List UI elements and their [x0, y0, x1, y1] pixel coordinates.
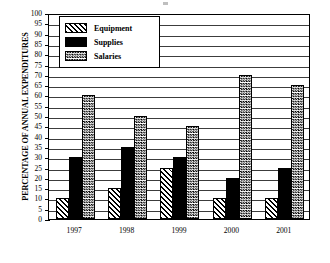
y-tick-label: 75 — [35, 62, 43, 70]
x-tick-label: 2001 — [276, 226, 291, 235]
y-tick-label: 35 — [35, 144, 43, 152]
y-tick-label: 30 — [35, 154, 43, 162]
bar-group — [259, 15, 310, 219]
y-tick-label: 90 — [35, 31, 43, 39]
bar-supplies — [69, 157, 82, 219]
legend-item-supplies: Supplies — [65, 35, 154, 49]
bar-salaries — [291, 85, 304, 219]
legend-swatch-salaries — [65, 51, 87, 61]
y-tick-label: 0 — [38, 216, 42, 224]
y-tick-label: 10 — [35, 196, 43, 204]
bar-salaries — [82, 95, 95, 219]
legend-item-equipment: Equipment — [65, 21, 154, 35]
bar-supplies — [173, 157, 186, 219]
legend-swatch-equipment — [65, 23, 87, 33]
bar-chart: PERCENTAGE OF ANNUAL EXPENDITURES 100959… — [0, 0, 330, 263]
bar-supplies — [226, 178, 239, 219]
bar-supplies — [121, 147, 134, 219]
y-tick-label: 15 — [35, 185, 43, 193]
bar-equipment — [213, 198, 226, 219]
y-tick-label: 5 — [38, 206, 42, 214]
y-tick-label: 65 — [35, 82, 43, 90]
bar-equipment — [160, 168, 173, 220]
x-tick-label: 1998 — [119, 226, 134, 235]
x-tick-label: 1999 — [171, 226, 186, 235]
y-tick-label: 55 — [35, 103, 43, 111]
bar-group — [206, 15, 258, 219]
y-tick-label: 80 — [35, 51, 43, 59]
bar-salaries — [186, 126, 199, 219]
x-tick-label: 1997 — [67, 226, 82, 235]
legend-label-salaries: Salaries — [94, 52, 121, 61]
y-tick-label: 100 — [31, 10, 42, 18]
y-tick-label: 45 — [35, 124, 43, 132]
bar-salaries — [134, 116, 147, 219]
y-tick-label: 85 — [35, 41, 43, 49]
legend-swatch-supplies — [65, 37, 87, 47]
legend-label-supplies: Supplies — [94, 38, 123, 47]
bar-equipment — [265, 198, 278, 219]
y-tick-label: 20 — [35, 175, 43, 183]
bar-equipment — [108, 188, 121, 219]
x-tick-label: 2000 — [224, 226, 239, 235]
y-axis-tick-labels: 1009590858075706560555045403530252015105… — [22, 14, 46, 220]
y-tick-label: 70 — [35, 72, 43, 80]
legend-label-equipment: Equipment — [94, 24, 132, 33]
y-tick-label: 25 — [35, 165, 43, 173]
bar-supplies — [278, 168, 291, 220]
y-tick-label: 40 — [35, 134, 43, 142]
scan-artifact — [163, 2, 168, 5]
y-tick-label: 50 — [35, 113, 43, 121]
y-tick-mark — [45, 220, 50, 221]
legend-item-salaries: Salaries — [65, 49, 154, 63]
x-axis-tick-labels: 19971998199920002001 — [48, 226, 310, 244]
bar-salaries — [239, 75, 252, 219]
bar-equipment — [56, 198, 69, 219]
y-tick-label: 95 — [35, 21, 43, 29]
y-tick-label: 60 — [35, 93, 43, 101]
bar-group — [154, 15, 206, 219]
legend: Equipment Supplies Salaries — [59, 16, 160, 68]
